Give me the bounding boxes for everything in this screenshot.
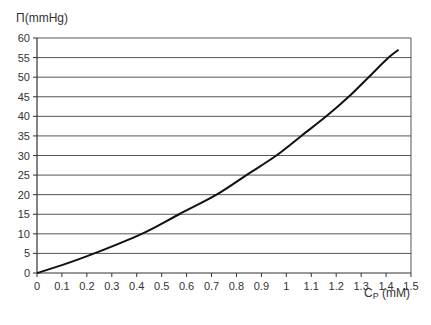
- y-tick-label: 60: [18, 32, 30, 44]
- y-tick-label: 30: [18, 150, 30, 162]
- x-tick-label: 0.8: [229, 280, 244, 292]
- data-curve: [37, 50, 399, 273]
- x-tick-label: 1.1: [304, 280, 319, 292]
- y-tick-label: 0: [24, 267, 30, 279]
- y-tick-label: 25: [18, 169, 30, 181]
- gridlines: [37, 38, 411, 253]
- x-tick-label: 0.4: [129, 280, 144, 292]
- x-tick-label: 0.3: [104, 280, 119, 292]
- x-tick-label: 0.6: [179, 280, 194, 292]
- x-tick-label: 0: [34, 280, 40, 292]
- y-tick-label: 5: [24, 247, 30, 259]
- x-axis-label: CP (mM): [364, 286, 410, 301]
- x-tick-label: 0.9: [254, 280, 269, 292]
- y-tick-label: 50: [18, 71, 30, 83]
- y-tick-label: 20: [18, 189, 30, 201]
- chart: 051015202530354045505560 00.10.20.30.40.…: [0, 0, 431, 325]
- y-tick-label: 40: [18, 110, 30, 122]
- x-tick-label: 0.1: [54, 280, 69, 292]
- x-tick-label: 1.2: [329, 280, 344, 292]
- x-tick-label: 0.2: [79, 280, 94, 292]
- y-axis-label: Π(mmHg): [16, 11, 68, 25]
- y-tick-label: 45: [18, 91, 30, 103]
- x-axis-ticks: 00.10.20.30.40.50.60.70.80.911.11.21.31.…: [34, 273, 419, 292]
- y-axis-ticks: 051015202530354045505560: [18, 32, 37, 279]
- x-tick-label: 0.5: [154, 280, 169, 292]
- x-tick-label: 0.7: [204, 280, 219, 292]
- y-tick-label: 15: [18, 208, 30, 220]
- y-tick-label: 10: [18, 228, 30, 240]
- y-tick-label: 55: [18, 52, 30, 64]
- x-tick-label: 1: [283, 280, 289, 292]
- y-tick-label: 35: [18, 130, 30, 142]
